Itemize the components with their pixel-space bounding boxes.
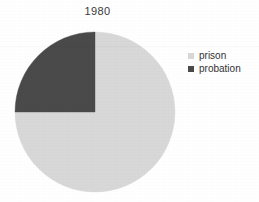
legend-swatch-prison <box>188 53 194 59</box>
legend-label-prison: prison <box>199 50 226 62</box>
legend-label-probation: probation <box>199 63 241 75</box>
pie-chart-figure: 1980 prison probation <box>0 0 259 202</box>
legend-swatch-probation <box>188 66 194 72</box>
legend-item-probation[interactable]: probation <box>188 63 258 75</box>
legend-item-prison[interactable]: prison <box>188 50 258 62</box>
pie-chart-graphic <box>0 0 259 202</box>
pie-slice-probation[interactable] <box>15 32 95 112</box>
chart-legend: prison probation <box>188 50 258 76</box>
